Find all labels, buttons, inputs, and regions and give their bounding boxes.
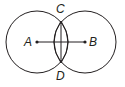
label-a: A xyxy=(23,35,32,49)
label-c: C xyxy=(56,2,65,16)
point-a-dot xyxy=(35,40,38,43)
label-d: D xyxy=(56,69,65,83)
point-b-dot xyxy=(83,40,86,43)
geometry-diagram: A B C D xyxy=(0,0,125,87)
label-b: B xyxy=(89,35,97,49)
